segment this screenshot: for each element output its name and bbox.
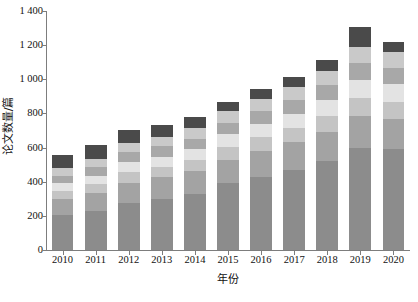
bar-2012[interactable] <box>118 130 140 250</box>
bar-segment <box>217 134 239 146</box>
bar-segment <box>283 114 305 128</box>
bar-segment <box>151 125 173 137</box>
y-tick-mark <box>42 148 46 149</box>
y-tick-label: 1 000 <box>13 74 43 85</box>
x-axis-title: 年份 <box>46 270 410 286</box>
bar-segment <box>217 183 239 250</box>
y-tick-mark <box>42 113 46 114</box>
bar-segment <box>118 183 140 203</box>
bar-segment <box>316 116 338 132</box>
bar-segment <box>383 68 405 84</box>
bar-segment <box>85 184 107 193</box>
bar-segment <box>217 147 239 160</box>
bar-segment <box>52 155 74 168</box>
bar-segment <box>184 139 206 150</box>
bar-segment <box>349 63 371 80</box>
bar-segment <box>349 47 371 63</box>
bar-segment <box>85 167 107 176</box>
bar-segment <box>184 128 206 138</box>
bar-segment <box>85 145 107 160</box>
bar-segment <box>85 193 107 211</box>
bar-segment <box>283 170 305 250</box>
y-tick-mark <box>42 45 46 46</box>
bar-segment <box>184 171 206 193</box>
bar-segment <box>217 111 239 123</box>
y-tick-mark <box>42 79 46 80</box>
bar-2015[interactable] <box>217 102 239 250</box>
y-axis-tick-labels: 02004006008001 0001 2001 400 <box>8 0 43 302</box>
y-tick-label: 0 <box>13 245 43 256</box>
bar-segment <box>184 194 206 250</box>
bar-segment <box>349 116 371 148</box>
y-tick-mark <box>42 182 46 183</box>
bar-segment <box>85 211 107 250</box>
y-tick-label: 1 200 <box>13 40 43 51</box>
plot-area <box>46 11 410 251</box>
y-tick-label: 1 400 <box>13 6 43 17</box>
bar-segment <box>151 177 173 198</box>
bar-2011[interactable] <box>85 145 107 250</box>
bar-segment <box>250 111 272 124</box>
y-axis-line <box>46 11 47 251</box>
bar-segment <box>151 199 173 250</box>
bar-segment <box>52 191 74 199</box>
bar-2010[interactable] <box>52 155 74 250</box>
bar-segment <box>52 183 74 191</box>
bar-segment <box>349 98 371 116</box>
stacked-bar-chart: 论文数量/篇 02004006008001 0001 2001 400 2010… <box>0 0 418 302</box>
y-tick-label: 200 <box>13 211 43 222</box>
bar-segment <box>316 100 338 116</box>
y-tick-mark <box>42 250 46 251</box>
bar-segment <box>52 215 74 250</box>
bar-segment <box>250 177 272 250</box>
bar-segment <box>283 100 305 114</box>
bar-segment <box>85 159 107 167</box>
bar-segment <box>316 161 338 250</box>
bar-2016[interactable] <box>250 89 272 250</box>
bar-segment <box>217 123 239 135</box>
bar-segment <box>283 77 305 87</box>
bar-segment <box>349 148 371 250</box>
bar-2019[interactable] <box>349 27 371 250</box>
bar-segment <box>118 172 140 182</box>
bar-segment <box>250 89 272 99</box>
bar-2014[interactable] <box>184 117 206 250</box>
y-tick-label: 400 <box>13 176 43 187</box>
bar-segment <box>52 199 74 215</box>
bar-segment <box>52 176 74 184</box>
bar-segment <box>118 130 140 143</box>
bar-segment <box>250 124 272 137</box>
bar-segment <box>151 137 173 147</box>
bar-segment <box>383 84 405 101</box>
bar-segment <box>316 60 338 71</box>
bar-segment <box>349 80 371 98</box>
bar-segment <box>316 71 338 86</box>
bar-segment <box>217 160 239 184</box>
bar-2020[interactable] <box>383 42 405 250</box>
bar-segment <box>383 42 405 52</box>
bar-segment <box>151 146 173 156</box>
bar-segment <box>184 160 206 171</box>
bar-2017[interactable] <box>283 77 305 250</box>
x-axis-tick-labels: 2010201120122013201420152016201720182019… <box>46 254 410 270</box>
bar-segment <box>52 168 74 176</box>
x-tick-label: 2020 <box>373 254 413 266</box>
bar-segment <box>151 157 173 167</box>
bar-segment <box>383 102 405 119</box>
bar-segment <box>217 102 239 111</box>
y-tick-label: 600 <box>13 142 43 153</box>
y-tick-mark <box>42 216 46 217</box>
bar-2013[interactable] <box>151 125 173 250</box>
bar-segment <box>383 149 405 250</box>
bar-segment <box>85 176 107 185</box>
bar-segment <box>316 85 338 100</box>
bar-segment <box>250 137 272 151</box>
bar-segment <box>250 99 272 111</box>
bar-2018[interactable] <box>316 60 338 250</box>
bar-segment <box>151 167 173 178</box>
bar-segment <box>383 52 405 68</box>
bar-segment <box>118 203 140 250</box>
bar-segment <box>118 143 140 152</box>
bar-segment <box>383 119 405 150</box>
bar-segment <box>349 27 371 47</box>
